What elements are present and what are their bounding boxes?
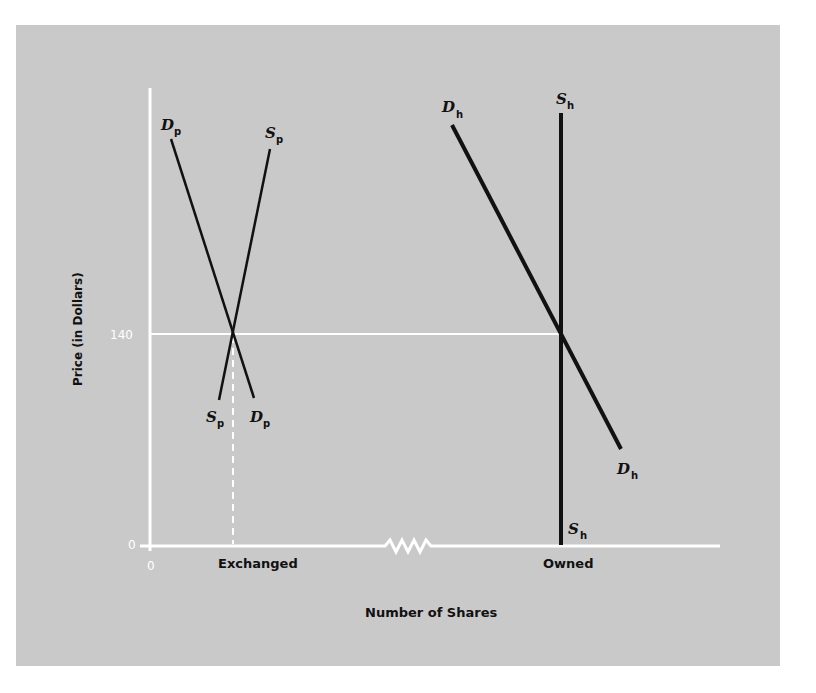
label-dh-bottom-sub: h [631, 470, 638, 481]
label-dp-top-main: D [160, 116, 174, 134]
label-sh-top-main: S [556, 90, 567, 108]
supply-curve-sp [219, 149, 270, 400]
label-sp-top-main: S [265, 124, 276, 142]
label-sh-bottom-main: S [568, 520, 579, 538]
chart-svg: 140 0 0 Exchanged Owned Number of Shares… [0, 0, 816, 693]
label-dp-bottom-sub: p [263, 418, 270, 429]
x-label-exchanged: Exchanged [218, 556, 298, 571]
x-axis [150, 540, 720, 552]
x-axis-title: Number of Shares [365, 605, 497, 620]
label-dp-top-sub: p [174, 126, 181, 137]
y-tick-0: 0 [128, 538, 136, 552]
label-dh-top-main: D [441, 98, 455, 116]
label-sh-top-sub: h [567, 100, 574, 111]
label-dp-bottom-main: D [249, 408, 263, 426]
demand-curve-dp [171, 139, 254, 398]
label-sp-top-sub: p [276, 134, 283, 145]
label-sh-bottom-sub: h [580, 530, 587, 541]
y-tick-140: 140 [110, 328, 133, 342]
label-sp-bottom-main: S [206, 408, 217, 426]
label-dh-bottom-main: D [616, 460, 630, 478]
x-label-owned: Owned [543, 556, 593, 571]
y-axis-title: Price (in Dollars) [71, 272, 85, 386]
label-sp-bottom-sub: p [217, 418, 224, 429]
label-dh-top-sub: h [456, 109, 463, 120]
demand-curve-dh [452, 125, 621, 449]
x-tick-0: 0 [147, 559, 155, 573]
